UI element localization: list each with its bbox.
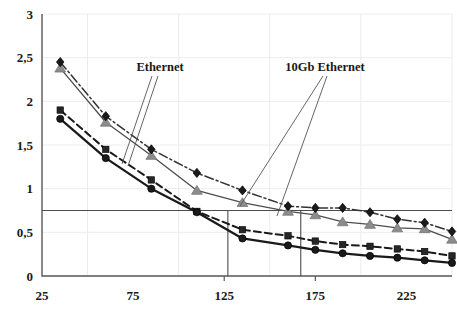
marker-diamond — [284, 202, 292, 211]
y-tick-label: 0,5 — [17, 225, 34, 240]
series-3 — [57, 115, 456, 266]
marker-circle — [239, 235, 246, 242]
annotation-label-tengb-ethernet: 10Gb Ethernet — [285, 60, 365, 74]
leader-line-tengb-ethernet — [277, 76, 327, 216]
annotation-label-ethernet: Ethernet — [136, 60, 184, 74]
marker-circle — [421, 257, 428, 264]
gridlines — [42, 14, 452, 276]
marker-circle — [448, 259, 455, 266]
marker-square — [57, 107, 63, 113]
marker-diamond — [239, 186, 247, 195]
marker-diamond — [448, 227, 456, 236]
series-line — [60, 68, 452, 239]
marker-square — [367, 243, 373, 249]
y-tick-label: 3 — [27, 7, 34, 22]
marker-square — [285, 233, 291, 239]
marker-circle — [312, 246, 319, 253]
marker-diamond — [366, 208, 374, 217]
series-0 — [56, 57, 455, 236]
marker-circle — [366, 252, 373, 259]
y-axis-tick-labels: 00,511,522,53 — [17, 7, 34, 284]
marker-diamond — [312, 203, 320, 212]
x-axis-tick-labels: 2575125175225 — [36, 288, 417, 303]
marker-square — [449, 253, 455, 259]
marker-circle — [102, 155, 109, 162]
marker-circle — [57, 115, 64, 122]
marker-square — [239, 227, 245, 233]
marker-square — [312, 238, 318, 244]
marker-circle — [193, 209, 200, 216]
marker-square — [103, 146, 109, 152]
y-tick-label: 2 — [27, 94, 34, 109]
leader-line-ethernet — [128, 76, 158, 166]
marker-diamond — [394, 215, 402, 224]
marker-circle — [148, 185, 155, 192]
y-tick-label: 1,5 — [17, 138, 34, 153]
marker-diamond — [421, 218, 429, 227]
marker-diamond — [339, 203, 347, 212]
marker-circle — [394, 254, 401, 261]
x-tick-label: 225 — [397, 288, 417, 303]
marker-square — [339, 241, 345, 247]
series-line — [60, 62, 452, 231]
x-tick-label: 25 — [36, 288, 50, 303]
marker-diamond — [148, 145, 156, 154]
marker-square — [421, 248, 427, 254]
x-tick-label: 125 — [214, 288, 234, 303]
series-line — [60, 119, 452, 263]
data-series — [55, 57, 457, 266]
y-tick-label: 1 — [27, 181, 34, 196]
marker-square — [394, 246, 400, 252]
marker-circle — [339, 250, 346, 257]
leader-line-tengb-ethernet — [240, 76, 323, 206]
x-tick-label: 75 — [127, 288, 141, 303]
y-tick-label: 0 — [27, 269, 34, 284]
y-tick-label: 2,5 — [17, 50, 34, 65]
marker-square — [148, 177, 154, 183]
annotation-labels: Ethernet10Gb Ethernet — [136, 60, 365, 74]
leader-line-ethernet — [122, 76, 152, 164]
reference-lines — [42, 211, 452, 277]
marker-diamond — [193, 168, 201, 177]
chart-container: 00,511,522,53 2575125175225 Ethernet10Gb… — [0, 0, 457, 315]
marker-circle — [284, 242, 291, 249]
x-tick-label: 175 — [306, 288, 326, 303]
line-chart: 00,511,522,53 2575125175225 Ethernet10Gb… — [0, 0, 457, 315]
